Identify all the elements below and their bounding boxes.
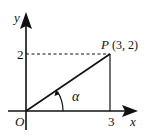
x-axis	[8, 105, 138, 117]
y-axis	[20, 12, 32, 130]
point-label: P	[100, 37, 109, 52]
y-tick-label: 2	[17, 47, 24, 62]
x-tick-label: 3	[108, 114, 115, 129]
angle-arc	[55, 90, 64, 112]
y-axis-label: y	[12, 10, 20, 25]
origin-label: O	[15, 114, 25, 129]
ray-op	[26, 54, 110, 111]
x-axis-label: x	[129, 114, 136, 129]
angle-label: α	[72, 89, 80, 104]
coordinate-diagram: y 2 P (3, 2) O 3 x α	[0, 0, 148, 136]
point-coords: (3, 2)	[112, 38, 138, 52]
